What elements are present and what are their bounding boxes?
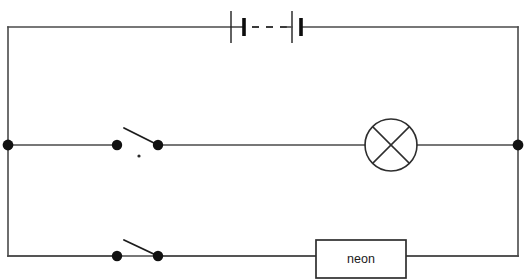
- circuit-canvas: neon: [0, 0, 527, 280]
- circuit-diagram: neon: [0, 0, 527, 280]
- middle-branch: [8, 119, 518, 171]
- switch-2[interactable]: [112, 240, 163, 261]
- switch-1-pivot-contact: [153, 140, 163, 150]
- switch-2-pivot-contact: [153, 251, 163, 261]
- bottom-branch: neon: [8, 240, 518, 278]
- lamp: [365, 119, 417, 171]
- switch-1-blade: [124, 128, 158, 145]
- junction-left-node: [3, 140, 14, 151]
- switch-2-blade: [124, 240, 158, 256]
- junction-right-node: [513, 140, 524, 151]
- neon-component: neon: [316, 240, 406, 278]
- neon-box-label: neon: [347, 252, 375, 266]
- switch-1[interactable]: [112, 128, 163, 150]
- outer-loop: [8, 27, 518, 256]
- ink-speck: [137, 154, 140, 157]
- switch-1-left-contact: [112, 140, 122, 150]
- battery-symbol: [231, 11, 301, 43]
- switch-2-left-contact: [112, 251, 122, 261]
